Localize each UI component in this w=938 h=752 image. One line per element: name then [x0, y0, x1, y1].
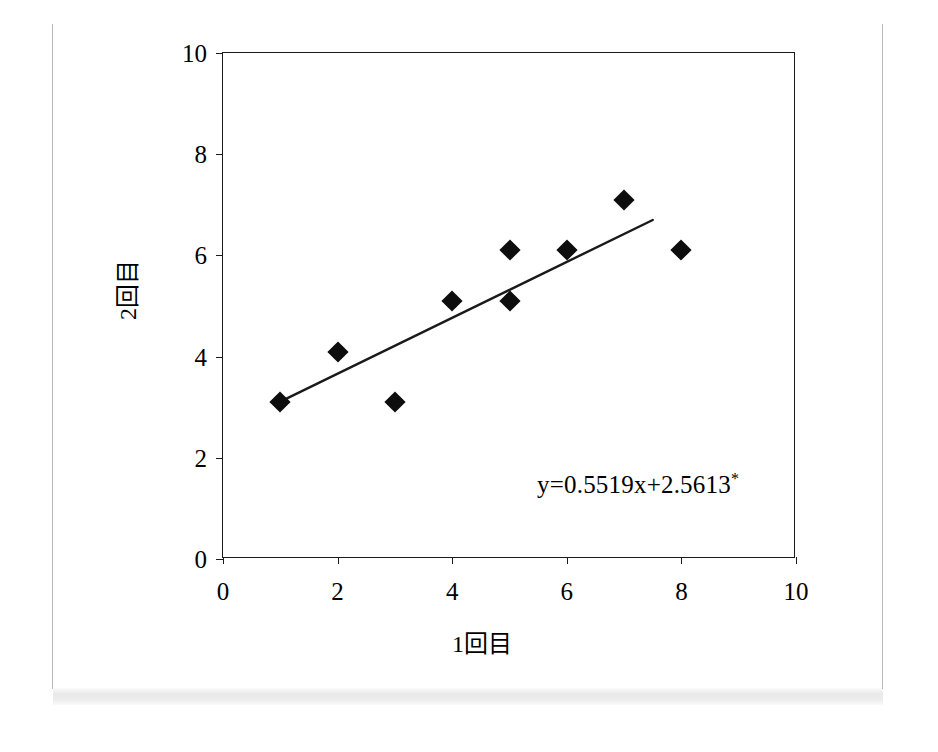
x-tick-label: 6 [561, 579, 574, 604]
y-tick-label: 2 [195, 445, 208, 470]
regression-equation-text: y=0.5519x+2.5613 [537, 471, 731, 498]
y-tick-mark [216, 357, 223, 358]
y-tick-mark [216, 53, 223, 54]
significance-star: * [731, 470, 739, 487]
y-tick-mark [216, 458, 223, 459]
figure-page: 02468100246810 2回目 1回目 y=0.5519x+2.5613* [0, 0, 938, 752]
x-tick-label: 4 [446, 579, 459, 604]
x-tick-mark [452, 557, 453, 564]
y-tick-label: 4 [195, 344, 208, 369]
y-tick-mark [216, 559, 223, 560]
regression-equation-annotation: y=0.5519x+2.5613* [537, 472, 739, 497]
x-tick-mark [338, 557, 339, 564]
trendline-segment [280, 220, 652, 402]
x-tick-mark [567, 557, 568, 564]
y-tick-mark [216, 154, 223, 155]
x-tick-label: 2 [331, 579, 344, 604]
x-tick-label: 10 [784, 579, 809, 604]
y-axis-title: 2回目 [116, 260, 140, 320]
x-tick-mark [681, 557, 682, 564]
x-axis-title: 1回目 [452, 632, 512, 656]
x-tick-mark [796, 557, 797, 564]
y-tick-mark [216, 255, 223, 256]
x-tick-label: 0 [217, 579, 230, 604]
y-tick-label: 8 [195, 142, 208, 167]
x-tick-mark [223, 557, 224, 564]
y-tick-label: 6 [195, 243, 208, 268]
y-tick-label: 10 [182, 41, 207, 66]
x-tick-label: 8 [675, 579, 688, 604]
y-tick-label: 0 [195, 547, 208, 572]
scatter-chart-figure: 02468100246810 2回目 1回目 y=0.5519x+2.5613* [0, 0, 938, 752]
